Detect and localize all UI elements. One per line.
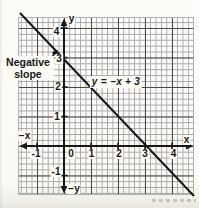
x-tick-label-1: 1 — [88, 149, 96, 159]
x-tick-label-0: 0 — [67, 149, 75, 159]
y-axis-arrow-top-icon — [61, 19, 68, 27]
x-tick-label-neg1: -1 — [31, 149, 42, 159]
x-axis-label-negative: −x — [18, 131, 31, 141]
graph-figure: 4 3 2 1 -1 -1 0 1 2 3 4 y −y x −x y = −x… — [0, 0, 199, 208]
y-tick-label-2: 2 — [54, 82, 62, 92]
x-axis-label-positive: x — [183, 135, 191, 145]
negative-slope-annotation: Negative slope — [2, 56, 54, 80]
plotted-line — [20, 13, 194, 196]
x-tick-label-3: 3 — [141, 149, 149, 159]
equation-label: y = −x + 3 — [90, 76, 142, 88]
y-tick-label-4: 4 — [53, 27, 61, 37]
y-axis-label-positive: y — [68, 14, 76, 24]
scan-edge-shade — [0, 0, 3, 208]
x-tick-label-4: 4 — [170, 149, 178, 159]
y-tick-label-3: 3 — [55, 54, 63, 64]
y-tick-label-1: 1 — [53, 112, 61, 122]
x-axis-arrow-left-icon — [20, 143, 28, 150]
x-tick-label-2: 2 — [115, 149, 123, 159]
axes-and-line-layer — [0, 0, 199, 208]
y-axis-label-negative: −y — [67, 184, 80, 194]
y-tick-label-neg1: -1 — [51, 167, 62, 177]
annotation-text-line1: Negative — [2, 56, 54, 68]
annotation-text-line2: slope — [2, 68, 54, 80]
scan-artifact — [152, 199, 196, 202]
